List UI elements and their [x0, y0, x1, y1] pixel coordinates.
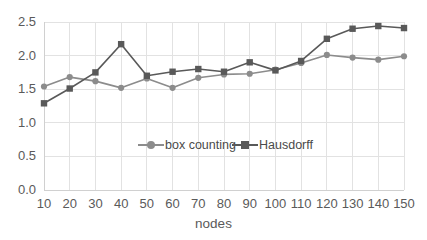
data-point-square — [67, 85, 73, 91]
data-point-square — [298, 58, 304, 64]
legend-marker-square-icon — [232, 139, 258, 151]
data-point-square — [401, 25, 407, 31]
legend-item-box-counting[interactable]: box counting — [138, 138, 236, 152]
chart-container: 0.00.51.01.52.02.5 102030405060708090100… — [0, 0, 427, 240]
gridlines — [44, 22, 404, 190]
data-point-circle — [41, 83, 47, 89]
data-point-square — [41, 100, 47, 106]
y-axis-tick-label: 2.5 — [4, 14, 36, 29]
legend-label-box-counting: box counting — [165, 138, 236, 152]
data-point-square — [221, 69, 227, 75]
data-point-square — [375, 23, 381, 29]
y-axis-tick-label: 2.0 — [4, 48, 36, 63]
data-point-square — [272, 67, 278, 73]
data-point-square — [247, 59, 253, 65]
data-point-square — [144, 73, 150, 79]
data-point-circle — [349, 55, 355, 61]
data-point-square — [195, 66, 201, 72]
y-axis-tick-label: 0.5 — [4, 148, 36, 163]
legend-label-hausdorff: Hausdorff — [259, 138, 313, 152]
y-axis-tick-label: 1.5 — [4, 81, 36, 96]
y-axis-tick-label: 1.0 — [4, 115, 36, 130]
data-point-square — [324, 36, 330, 42]
data-point-circle — [324, 52, 330, 58]
data-point-circle — [67, 74, 73, 80]
y-axis-tick-label: 0.0 — [4, 182, 36, 197]
data-point-square — [169, 69, 175, 75]
x-axis-title: nodes — [0, 216, 427, 231]
data-point-square — [118, 41, 124, 47]
data-point-circle — [195, 75, 201, 81]
data-point-circle — [401, 53, 407, 59]
data-point-circle — [375, 57, 381, 63]
data-point-circle — [169, 85, 175, 91]
data-point-circle — [92, 78, 98, 84]
x-axis-tick-label: 150 — [389, 196, 419, 211]
data-point-circle — [118, 85, 124, 91]
data-point-square — [349, 26, 355, 32]
legend-item-hausdorff[interactable]: Hausdorff — [232, 138, 313, 152]
data-point-circle — [247, 71, 253, 77]
legend-marker-circle-icon — [138, 139, 164, 151]
data-point-square — [92, 69, 98, 75]
